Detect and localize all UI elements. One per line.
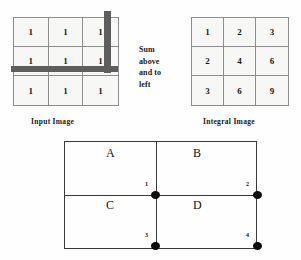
input-image-caption: Input Image <box>31 117 74 126</box>
input-cell-r0c0: 1 <box>14 18 49 47</box>
integral-cell-r1c1: 4 <box>224 47 256 76</box>
integral-cell-r0c2: 3 <box>256 18 288 47</box>
corner-number-4: 4 <box>246 232 249 238</box>
input-cell-r0c2: 1 <box>83 18 118 47</box>
integral-cell-r2c0: 3 <box>192 76 224 105</box>
corner-dot-3 <box>151 242 160 250</box>
input-cell-r2c2: 1 <box>83 76 118 105</box>
quadrant-label-c: C <box>106 198 114 213</box>
corner-number-2: 2 <box>246 181 249 187</box>
integral-image-grid: 1 2 3 2 4 6 3 6 9 <box>191 17 289 106</box>
integral-image-caption: Integral Image <box>203 117 255 126</box>
input-cell-r2c1: 1 <box>49 76 84 105</box>
sum-caption-line-2: above <box>139 56 187 68</box>
quadrant-horizontal-divider <box>65 195 258 196</box>
integral-cell-r0c1: 2 <box>224 18 256 47</box>
integral-cell-r2c1: 6 <box>224 76 256 105</box>
sum-caption-line-3: and to <box>139 67 187 79</box>
integral-cell-r0c0: 1 <box>192 18 224 47</box>
integral-cell-r1c0: 2 <box>192 47 224 76</box>
input-cell-r2c0: 1 <box>14 76 49 105</box>
vertical-sweep-bar <box>104 11 111 73</box>
quadrant-label-d: D <box>193 198 202 213</box>
corner-dot-2 <box>253 191 262 199</box>
input-cell-r0c1: 1 <box>49 18 84 47</box>
corner-dot-4 <box>253 242 262 250</box>
sum-caption-line-1: Sum <box>139 44 187 56</box>
quadrant-label-a: A <box>106 146 115 161</box>
corner-number-1: 1 <box>145 181 148 187</box>
sum-above-and-left-caption: Sum above and to left <box>139 44 187 90</box>
horizontal-sweep-bar <box>11 66 118 72</box>
corner-number-3: 3 <box>145 232 148 238</box>
quadrant-label-b: B <box>193 146 201 161</box>
integral-cell-r2c2: 9 <box>256 76 288 105</box>
integral-cell-r1c2: 6 <box>256 47 288 76</box>
corner-dot-1 <box>151 191 160 199</box>
quadrant-diagram: A B C D 1 2 3 4 <box>64 141 257 249</box>
figure-canvas: 1 1 1 1 1 1 1 1 1 Sum above and to left … <box>0 0 301 260</box>
sum-caption-line-4: left <box>139 79 187 91</box>
